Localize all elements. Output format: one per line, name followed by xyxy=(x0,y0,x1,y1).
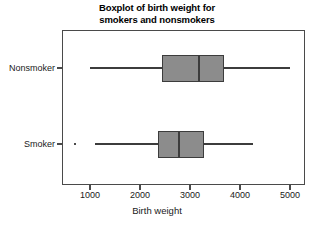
chart-title-line-1: Boxplot of birth weight for xyxy=(0,2,314,14)
whisker-low xyxy=(95,143,158,144)
boxplot-chart: Boxplot of birth weight for smokers and … xyxy=(0,0,314,227)
x-axis-tick-label: 5000 xyxy=(270,190,310,201)
whisker-high xyxy=(204,143,253,144)
box-nonsmoker xyxy=(162,55,224,82)
chart-title: Boxplot of birth weight for smokers and … xyxy=(0,2,314,25)
chart-title-line-2: smokers and nonsmokers xyxy=(0,14,314,26)
x-axis-tick-label: 1000 xyxy=(70,190,110,201)
x-axis-title: Birth weight xyxy=(0,205,314,216)
plot-area-frame xyxy=(62,30,305,185)
y-axis-category-label-smoker: Smoker xyxy=(24,139,55,149)
whisker-low xyxy=(90,67,162,68)
whisker-high xyxy=(224,67,290,68)
box-smoker xyxy=(158,131,204,158)
x-axis-tick-label: 3000 xyxy=(170,190,210,201)
y-axis-tick xyxy=(57,143,62,144)
median-line xyxy=(178,131,179,158)
median-line xyxy=(198,55,199,82)
y-axis-category-label-nonsmoker: Nonsmoker xyxy=(9,63,55,73)
x-axis-tick-label: 4000 xyxy=(220,190,260,201)
outlier-point xyxy=(74,143,77,146)
y-axis-tick xyxy=(57,67,62,68)
x-axis-tick-label: 2000 xyxy=(120,190,160,201)
